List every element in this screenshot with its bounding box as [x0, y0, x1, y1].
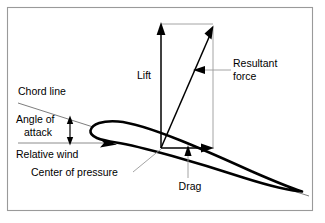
- angle-of-attack-label-line1: Angle of: [16, 113, 55, 125]
- angle-of-attack-arrowhead-top: [67, 116, 73, 125]
- resultant-force-vector-line: [161, 35, 210, 148]
- center-of-pressure-label: Center of pressure: [31, 166, 118, 178]
- lift-label: Lift: [137, 69, 151, 81]
- resultant-force-label-line2: force: [233, 70, 257, 82]
- center-of-pressure-leader-line: [133, 149, 161, 172]
- relative-wind-label: Relative wind: [16, 148, 79, 160]
- diagram-canvas: Chord line Angle of attack Relative wind…: [0, 0, 325, 223]
- drag-label: Drag: [179, 180, 202, 192]
- chord-line-label: Chord line: [18, 85, 66, 97]
- angle-of-attack-arrowhead-bottom: [67, 137, 73, 146]
- airfoil-force-diagram: Chord line Angle of attack Relative wind…: [0, 0, 325, 223]
- angle-of-attack-label-line2: attack: [24, 126, 53, 138]
- resultant-force-pointer-arrowhead: [193, 66, 205, 74]
- resultant-force-label-line1: Resultant: [233, 57, 277, 69]
